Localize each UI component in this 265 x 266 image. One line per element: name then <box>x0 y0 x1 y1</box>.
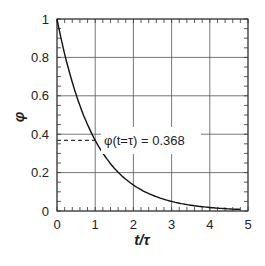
x-tick-label: 1 <box>92 217 99 232</box>
x-axis-title: t/τ <box>134 231 150 248</box>
x-tick-label: 4 <box>206 217 213 232</box>
y-tick-labels: 00.20.40.60.81 <box>31 12 49 219</box>
x-tick-label: 0 <box>53 217 60 232</box>
y-tick-label: 0.6 <box>31 88 49 103</box>
y-tick-label: 0.4 <box>31 127 49 142</box>
x-tick-label: 3 <box>168 217 175 232</box>
y-tick-label: 0.8 <box>31 50 49 65</box>
x-tick-labels: 012345 <box>53 217 251 232</box>
annotation-label: φ(t=τ) = 0.368 <box>104 133 185 148</box>
y-tick-label: 1 <box>42 12 49 27</box>
axis-ticks <box>57 19 248 211</box>
grid-lines <box>57 19 248 211</box>
decay-curve <box>57 19 240 209</box>
y-axis-title: φ <box>10 111 27 122</box>
plot-frame <box>57 19 248 211</box>
chart: φ(t=τ) = 0.368 012345 00.20.40.60.81 t/τ… <box>0 0 265 266</box>
y-tick-label: 0.2 <box>31 165 49 180</box>
x-tick-label: 5 <box>244 217 251 232</box>
x-tick-label: 2 <box>130 217 137 232</box>
y-tick-label: 0 <box>42 204 49 219</box>
